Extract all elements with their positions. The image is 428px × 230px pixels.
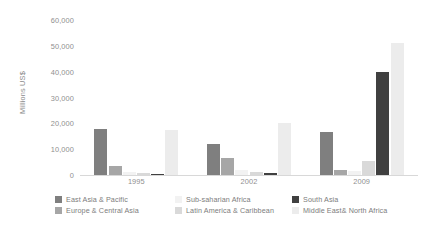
legend-item: Middle East& North Africa bbox=[292, 205, 387, 216]
legend-swatch bbox=[55, 207, 62, 214]
legend-item: Latin America & Caribbean bbox=[175, 205, 274, 216]
y-axis-tick-label: 20,000 bbox=[28, 119, 74, 128]
x-axis-tick-label: 1995 bbox=[128, 177, 145, 186]
legend-swatch bbox=[175, 196, 182, 203]
legend-item: Europe & Central Asia bbox=[55, 205, 139, 216]
bar bbox=[94, 129, 107, 176]
y-axis-tick-label: 40,000 bbox=[28, 67, 74, 76]
legend-swatch bbox=[292, 196, 299, 203]
x-axis-tick-label: 2002 bbox=[241, 177, 258, 186]
legend-label: Latin America & Caribbean bbox=[186, 207, 274, 214]
legend-label: East Asia & Pacific bbox=[66, 196, 128, 203]
legend-label: Europe & Central Asia bbox=[66, 207, 139, 214]
bar-group bbox=[80, 20, 193, 175]
legend-item: East Asia & Pacific bbox=[55, 194, 128, 205]
bar-group bbox=[305, 20, 418, 175]
bar bbox=[109, 166, 122, 175]
y-axis-tick-label: 30,000 bbox=[28, 93, 74, 102]
y-axis-tick-label: 10,000 bbox=[28, 145, 74, 154]
y-axis-tick-label: 60,000 bbox=[28, 16, 74, 25]
x-axis-tick-label: 2009 bbox=[353, 177, 370, 186]
x-axis-tick-labels: 199520022009 bbox=[80, 177, 418, 191]
chart-legend: East Asia & PacificEurope & Central Asia… bbox=[55, 194, 428, 222]
bar bbox=[278, 123, 291, 175]
y-axis-tick-label: 0 bbox=[28, 171, 74, 180]
bar bbox=[376, 72, 389, 175]
legend-label: South Asia bbox=[303, 196, 338, 203]
legend-swatch bbox=[175, 207, 182, 214]
y-axis-tick-label: 50,000 bbox=[28, 41, 74, 50]
bar-chart: Millions US$ 010,00020,00030,00040,00050… bbox=[0, 0, 428, 230]
plot-area bbox=[80, 20, 418, 175]
legend-swatch bbox=[292, 207, 299, 214]
bar bbox=[362, 161, 375, 175]
bar-group bbox=[193, 20, 306, 175]
legend-label: Sub-saharian Africa bbox=[186, 196, 251, 203]
bar bbox=[391, 43, 404, 175]
bar bbox=[320, 132, 333, 175]
bar bbox=[165, 130, 178, 175]
bar bbox=[207, 144, 220, 175]
legend-label: Middle East& North Africa bbox=[303, 207, 387, 214]
y-axis-title: Millions US$ bbox=[18, 48, 27, 138]
legend-item: Sub-saharian Africa bbox=[175, 194, 251, 205]
legend-swatch bbox=[55, 196, 62, 203]
bar bbox=[221, 158, 234, 175]
x-axis-line bbox=[80, 175, 418, 176]
legend-item: South Asia bbox=[292, 194, 338, 205]
